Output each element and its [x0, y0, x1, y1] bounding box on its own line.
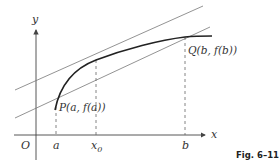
point-Q-label: Q(b, f(b))	[188, 44, 237, 57]
tick-label-b: b	[182, 139, 189, 152]
mean-value-diagram: y x O a x0 b P(a, f(a)) Q(b, f(b)) Fig. …	[0, 0, 280, 165]
point-P-label: P(a, f(a))	[58, 101, 106, 113]
x0-subscript: 0	[97, 145, 102, 154]
y-axis-label: y	[31, 13, 39, 26]
figure-caption: Fig. 6–11	[236, 150, 279, 160]
origin-label: O	[21, 139, 30, 152]
tangent-line	[15, 6, 203, 90]
x-axis-label: x	[211, 128, 218, 141]
tick-label-a: a	[53, 139, 60, 152]
tick-label-x0: x0	[91, 139, 102, 154]
secant-line	[15, 27, 210, 118]
